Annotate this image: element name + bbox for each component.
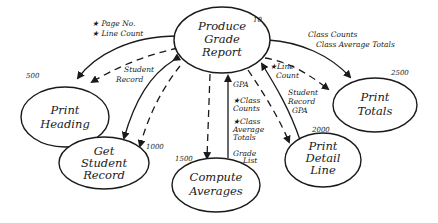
flow-label-heading-control: ★ Page No. ★ Line Count bbox=[92, 19, 144, 38]
svg-text:Totals: Totals bbox=[233, 133, 256, 142]
svg-text:Print: Print bbox=[360, 90, 390, 104]
svg-text:Averages: Averages bbox=[188, 184, 243, 198]
flow-label-totals-data: Class Counts Class Average Totals bbox=[308, 30, 395, 49]
svg-text:Record: Record bbox=[115, 75, 143, 84]
svg-text:List: List bbox=[242, 156, 258, 165]
node-produce-grade-report: Produce Grade Report 10 bbox=[174, 7, 270, 73]
svg-text:Produce: Produce bbox=[197, 19, 246, 33]
svg-text:Record: Record bbox=[82, 168, 125, 182]
svg-text:GPA: GPA bbox=[292, 106, 308, 115]
flow-label-compute-gpa: GPA bbox=[233, 80, 249, 89]
svg-text:Count: Count bbox=[276, 71, 300, 80]
edge-getrec-dashed bbox=[140, 66, 180, 146]
structure-chart: Produce Grade Report 10 Print Heading 50… bbox=[0, 0, 438, 223]
node-print-heading: Print Heading 500 bbox=[21, 72, 109, 147]
flow-label-detail-control: ★Line Count bbox=[270, 62, 300, 80]
svg-text:500: 500 bbox=[26, 72, 40, 80]
svg-text:★ Line Count: ★ Line Count bbox=[92, 29, 144, 38]
svg-text:Print: Print bbox=[50, 103, 80, 117]
node-print-detail-line: Print Detail Line 2000 bbox=[285, 126, 361, 187]
svg-text:★ Page No.: ★ Page No. bbox=[92, 19, 136, 28]
node-get-student-record: Get Student Record 1000 bbox=[59, 137, 164, 189]
svg-text:Counts: Counts bbox=[233, 104, 260, 113]
flow-label-heading-data: Student Record bbox=[115, 65, 155, 84]
svg-text:Student: Student bbox=[288, 88, 319, 97]
svg-text:1000: 1000 bbox=[146, 143, 164, 151]
svg-text:GPA: GPA bbox=[233, 80, 249, 89]
flow-label-compute-control: ★Class Counts ★Class Average Totals bbox=[232, 96, 265, 142]
svg-text:Report: Report bbox=[201, 45, 242, 59]
svg-text:Totals: Totals bbox=[358, 104, 393, 118]
svg-text:Line: Line bbox=[309, 163, 336, 177]
svg-text:2000: 2000 bbox=[311, 126, 330, 134]
flow-label-detail-data: Student Record GPA bbox=[287, 88, 319, 115]
svg-text:Class Counts: Class Counts bbox=[308, 30, 358, 39]
svg-text:Record: Record bbox=[287, 97, 315, 106]
svg-text:Grade: Grade bbox=[204, 32, 240, 46]
svg-text:1500: 1500 bbox=[175, 155, 193, 163]
svg-text:★Line: ★Line bbox=[270, 62, 294, 71]
edge-compute-dashed bbox=[207, 74, 210, 158]
node-print-totals: Print Totals 2500 bbox=[333, 69, 417, 132]
svg-text:10: 10 bbox=[253, 16, 262, 24]
svg-text:2500: 2500 bbox=[390, 69, 409, 77]
svg-text:Student: Student bbox=[124, 65, 155, 74]
svg-text:Compute: Compute bbox=[190, 170, 243, 184]
svg-text:Heading: Heading bbox=[39, 117, 90, 131]
svg-text:Class Average Totals: Class Average Totals bbox=[316, 40, 395, 49]
